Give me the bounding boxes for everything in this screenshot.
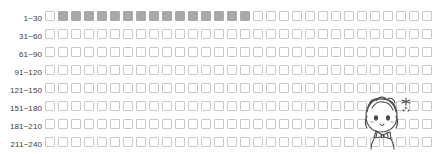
tracker-cell-empty[interactable]: [357, 11, 367, 21]
tracker-cell-empty[interactable]: [383, 101, 393, 111]
tracker-cell-empty[interactable]: [240, 83, 250, 93]
tracker-cell-empty[interactable]: [123, 65, 133, 75]
tracker-cell-filled[interactable]: [240, 11, 250, 21]
tracker-cell-empty[interactable]: [214, 137, 224, 147]
tracker-cell-empty[interactable]: [266, 83, 276, 93]
tracker-cell-filled[interactable]: [58, 11, 68, 21]
tracker-cell-empty[interactable]: [188, 83, 198, 93]
tracker-cell-empty[interactable]: [409, 101, 419, 111]
tracker-cell-empty[interactable]: [383, 11, 393, 21]
tracker-cell-empty[interactable]: [84, 119, 94, 129]
tracker-cell-filled[interactable]: [162, 11, 172, 21]
tracker-cell-empty[interactable]: [201, 119, 211, 129]
tracker-cell-empty[interactable]: [45, 119, 55, 129]
tracker-cell-filled[interactable]: [84, 11, 94, 21]
tracker-cell-empty[interactable]: [344, 29, 354, 39]
tracker-cell-empty[interactable]: [240, 29, 250, 39]
tracker-cell-empty[interactable]: [279, 119, 289, 129]
tracker-cell-empty[interactable]: [305, 11, 315, 21]
tracker-cell-empty[interactable]: [357, 119, 367, 129]
tracker-cell-empty[interactable]: [318, 47, 328, 57]
tracker-cell-filled[interactable]: [97, 11, 107, 21]
tracker-cell-empty[interactable]: [175, 137, 185, 147]
tracker-cell-empty[interactable]: [71, 137, 81, 147]
tracker-cell-empty[interactable]: [58, 83, 68, 93]
tracker-cell-empty[interactable]: [370, 29, 380, 39]
tracker-cell-empty[interactable]: [292, 101, 302, 111]
tracker-cell-empty[interactable]: [292, 29, 302, 39]
tracker-cell-empty[interactable]: [331, 47, 341, 57]
tracker-cell-empty[interactable]: [266, 11, 276, 21]
tracker-cell-empty[interactable]: [45, 137, 55, 147]
tracker-cell-empty[interactable]: [162, 101, 172, 111]
tracker-cell-empty[interactable]: [318, 29, 328, 39]
tracker-cell-empty[interactable]: [422, 29, 432, 39]
tracker-cell-empty[interactable]: [292, 65, 302, 75]
tracker-cell-empty[interactable]: [162, 47, 172, 57]
tracker-cell-empty[interactable]: [201, 137, 211, 147]
tracker-cell-empty[interactable]: [214, 101, 224, 111]
tracker-cell-empty[interactable]: [305, 47, 315, 57]
tracker-cell-empty[interactable]: [84, 29, 94, 39]
tracker-cell-empty[interactable]: [175, 29, 185, 39]
tracker-cell-empty[interactable]: [162, 119, 172, 129]
tracker-cell-empty[interactable]: [71, 83, 81, 93]
tracker-cell-empty[interactable]: [240, 101, 250, 111]
tracker-cell-empty[interactable]: [71, 65, 81, 75]
tracker-cell-empty[interactable]: [422, 101, 432, 111]
tracker-cell-empty[interactable]: [136, 29, 146, 39]
tracker-cell-empty[interactable]: [305, 137, 315, 147]
tracker-cell-empty[interactable]: [227, 47, 237, 57]
tracker-cell-empty[interactable]: [149, 83, 159, 93]
tracker-cell-empty[interactable]: [305, 83, 315, 93]
tracker-cell-empty[interactable]: [383, 29, 393, 39]
tracker-cell-empty[interactable]: [149, 119, 159, 129]
tracker-cell-empty[interactable]: [305, 101, 315, 111]
tracker-cell-empty[interactable]: [58, 119, 68, 129]
tracker-cell-empty[interactable]: [58, 29, 68, 39]
tracker-cell-empty[interactable]: [292, 11, 302, 21]
tracker-cell-empty[interactable]: [318, 137, 328, 147]
tracker-cell-empty[interactable]: [162, 83, 172, 93]
tracker-cell-empty[interactable]: [214, 65, 224, 75]
tracker-cell-empty[interactable]: [71, 119, 81, 129]
tracker-cell-empty[interactable]: [370, 65, 380, 75]
tracker-cell-empty[interactable]: [396, 29, 406, 39]
tracker-cell-empty[interactable]: [266, 29, 276, 39]
tracker-cell-empty[interactable]: [123, 137, 133, 147]
tracker-cell-empty[interactable]: [136, 119, 146, 129]
tracker-cell-empty[interactable]: [84, 65, 94, 75]
tracker-cell-empty[interactable]: [58, 101, 68, 111]
tracker-cell-empty[interactable]: [344, 101, 354, 111]
tracker-cell-filled[interactable]: [110, 11, 120, 21]
tracker-cell-empty[interactable]: [136, 137, 146, 147]
tracker-cell-empty[interactable]: [331, 119, 341, 129]
tracker-cell-empty[interactable]: [422, 119, 432, 129]
tracker-cell-empty[interactable]: [97, 119, 107, 129]
tracker-cell-empty[interactable]: [58, 137, 68, 147]
tracker-cell-empty[interactable]: [110, 137, 120, 147]
tracker-cell-empty[interactable]: [201, 47, 211, 57]
tracker-cell-empty[interactable]: [110, 101, 120, 111]
tracker-cell-empty[interactable]: [201, 65, 211, 75]
tracker-cell-empty[interactable]: [292, 137, 302, 147]
tracker-cell-filled[interactable]: [214, 11, 224, 21]
tracker-cell-empty[interactable]: [422, 65, 432, 75]
tracker-cell-empty[interactable]: [162, 137, 172, 147]
tracker-cell-empty[interactable]: [331, 83, 341, 93]
tracker-cell-empty[interactable]: [409, 11, 419, 21]
tracker-cell-empty[interactable]: [253, 11, 263, 21]
tracker-cell-empty[interactable]: [188, 29, 198, 39]
tracker-cell-empty[interactable]: [383, 137, 393, 147]
tracker-cell-empty[interactable]: [97, 83, 107, 93]
tracker-cell-empty[interactable]: [175, 65, 185, 75]
tracker-cell-empty[interactable]: [201, 101, 211, 111]
tracker-cell-empty[interactable]: [110, 65, 120, 75]
tracker-cell-empty[interactable]: [409, 83, 419, 93]
tracker-cell-empty[interactable]: [370, 11, 380, 21]
tracker-cell-empty[interactable]: [123, 47, 133, 57]
tracker-cell-empty[interactable]: [396, 137, 406, 147]
tracker-cell-empty[interactable]: [396, 11, 406, 21]
tracker-cell-empty[interactable]: [188, 137, 198, 147]
tracker-cell-empty[interactable]: [383, 83, 393, 93]
